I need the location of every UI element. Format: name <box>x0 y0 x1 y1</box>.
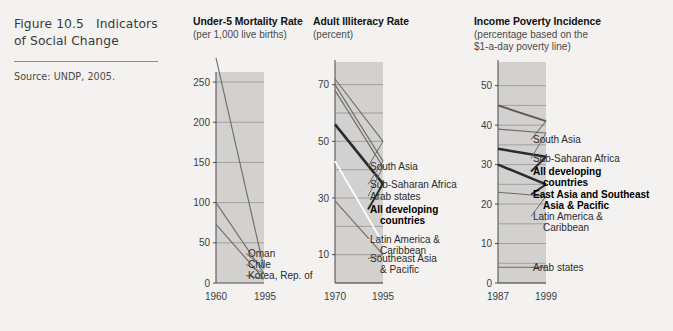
x-tick-label-end: 1995 <box>254 291 277 302</box>
y-tick-label: 0 <box>204 278 210 289</box>
x-tick-label-end: 1999 <box>535 291 558 302</box>
y-tick-label: 100 <box>193 197 210 208</box>
figure-container: Figure 10.5 Indicators of Social Change … <box>0 0 673 331</box>
caption-block: Figure 10.5 Indicators of Social Change … <box>14 16 164 82</box>
figure-caption: Figure 10.5 Indicators of Social Change <box>14 16 164 50</box>
y-tick-label: 250 <box>193 77 210 88</box>
series-label: East Asia and Southeast <box>533 189 650 200</box>
x-tick-label-start: 1960 <box>205 291 228 302</box>
y-tick-label: 30 <box>481 159 493 170</box>
series-label: Arab states <box>370 191 421 202</box>
x-tick-label-start: 1987 <box>487 291 510 302</box>
y-tick-label: 150 <box>193 157 210 168</box>
series-label: countries <box>543 177 588 188</box>
y-tick-label: 50 <box>318 136 330 147</box>
series-label: Southeast Asia <box>370 253 437 264</box>
panel-3-plot: 01020304050South AsiaSub-Saharan AfricaA… <box>474 0 673 331</box>
series-label: All developing <box>370 204 438 215</box>
y-tick-label: 50 <box>199 237 211 248</box>
y-tick-label: 70 <box>318 79 330 90</box>
series-label: Latin America & <box>533 211 603 222</box>
series-label: Chile <box>248 259 271 270</box>
series-label: South Asia <box>370 161 418 172</box>
series-label: Korea, Rep. of <box>248 270 313 281</box>
y-tick-label: 10 <box>318 249 330 260</box>
panel-2-plot: 10305070South AsiaSub-Saharan AfricaArab… <box>313 0 483 331</box>
series-label: All developing <box>533 166 601 177</box>
series-label: Asia & Pacific <box>543 200 610 211</box>
caption-divider <box>14 61 158 62</box>
x-tick-label-start: 1970 <box>324 291 347 302</box>
series-label: Sub-Saharan Africa <box>370 179 457 190</box>
y-tick-label: 30 <box>318 193 330 204</box>
y-tick-label: 50 <box>481 80 493 91</box>
y-tick-label: 20 <box>481 199 493 210</box>
series-label: Oman <box>248 248 275 259</box>
y-tick-label: 10 <box>481 238 493 249</box>
y-tick-label: 40 <box>481 120 493 131</box>
y-tick-label: 200 <box>193 117 210 128</box>
x-tick-label-end: 1995 <box>372 291 395 302</box>
series-label: & Pacific <box>380 264 419 275</box>
series-label: Caribbean <box>543 222 589 233</box>
series-label: South Asia <box>533 134 581 145</box>
series-label: countries <box>380 215 425 226</box>
y-tick-label: 0 <box>486 278 492 289</box>
figure-title-line1: Indicators <box>96 17 158 31</box>
series-label: Latin America & <box>370 234 440 245</box>
panel-1-plot: 050100150200250OmanChileKorea, Rep. of19… <box>193 0 323 331</box>
series-label: Sub-Saharan Africa <box>533 153 620 164</box>
series-label: Arab states <box>533 262 584 273</box>
figure-title-line2: of Social Change <box>14 34 119 48</box>
source-note: Source: UNDP, 2005. <box>14 71 164 82</box>
figure-number: Figure 10.5 <box>14 17 84 31</box>
